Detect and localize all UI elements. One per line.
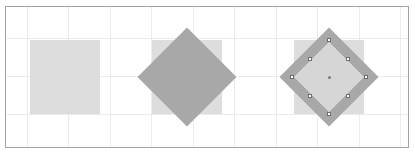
grid-line-vertical [400, 7, 401, 147]
handle-bottom-left[interactable] [308, 94, 312, 98]
shape-rotation-figure [0, 0, 415, 158]
handle-top-left[interactable] [308, 57, 312, 61]
grid-line-vertical [27, 7, 28, 147]
shape-original-square[interactable] [30, 40, 100, 114]
grid-line-horizontal [6, 38, 408, 39]
handle-bottom-right[interactable] [346, 94, 350, 98]
grid-line-vertical [276, 7, 277, 147]
rotation-center-marker[interactable] [328, 76, 331, 79]
handle-top[interactable] [327, 38, 331, 42]
handle-right[interactable] [364, 75, 368, 79]
handle-left[interactable] [290, 75, 294, 79]
grid-line-vertical [110, 7, 111, 147]
canvas-surface[interactable] [6, 7, 408, 147]
handle-bottom[interactable] [327, 112, 331, 116]
grid-line-horizontal [6, 114, 408, 115]
handle-top-right[interactable] [346, 57, 350, 61]
